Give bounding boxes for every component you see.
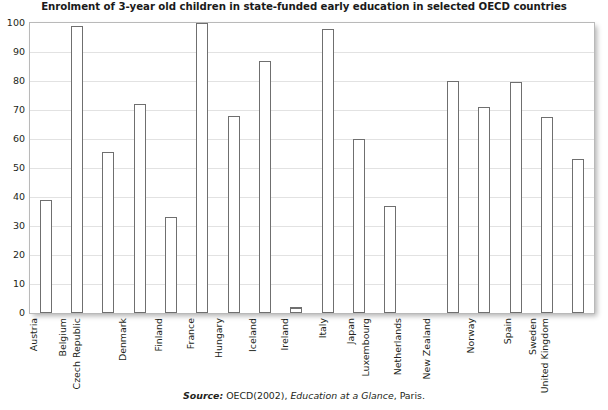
source-place: , Paris. bbox=[394, 390, 425, 401]
x-axis: AustriaBelgiumCzech RepublicDenmarkFinla… bbox=[30, 316, 594, 394]
y-tick-label: 100 bbox=[0, 18, 25, 28]
bar-slot bbox=[343, 23, 374, 313]
bar-slot bbox=[375, 23, 406, 313]
y-tick-label: 90 bbox=[0, 47, 25, 57]
bar-slot bbox=[312, 23, 343, 313]
bar[interactable] bbox=[165, 217, 177, 313]
bar[interactable] bbox=[447, 81, 459, 313]
x-tick-label: Denmark bbox=[118, 318, 128, 361]
bar-slot bbox=[155, 23, 186, 313]
source-publisher: OECD(2002), bbox=[223, 390, 290, 401]
x-label-slot: Denmark bbox=[124, 316, 155, 394]
x-tick-label: United Kingdom bbox=[541, 318, 551, 393]
bar-slot bbox=[124, 23, 155, 313]
bar-slot bbox=[187, 23, 218, 313]
bar-slot bbox=[218, 23, 249, 313]
bar[interactable] bbox=[102, 152, 114, 313]
y-tick-label: 60 bbox=[0, 134, 25, 144]
x-tick-label: France bbox=[187, 318, 197, 349]
bar-slot bbox=[563, 23, 594, 313]
bar-slot bbox=[437, 23, 468, 313]
y-tick-label: 80 bbox=[0, 76, 25, 86]
y-tick-label: 50 bbox=[0, 163, 25, 173]
bar[interactable] bbox=[71, 26, 83, 313]
bar-slot bbox=[406, 23, 437, 313]
x-tick-label: Japan bbox=[346, 318, 356, 344]
bar[interactable] bbox=[228, 116, 240, 313]
y-tick-label: 70 bbox=[0, 105, 25, 115]
gridline bbox=[30, 313, 594, 314]
y-axis: 0102030405060708090100 bbox=[0, 22, 25, 314]
source-label: Source: bbox=[183, 390, 223, 401]
x-label-slot: Italy bbox=[312, 316, 343, 394]
bar[interactable] bbox=[541, 117, 553, 313]
x-tick-label: Sweden bbox=[528, 318, 538, 355]
x-tick-label: Austria bbox=[29, 318, 39, 351]
bar-slot bbox=[531, 23, 562, 313]
x-tick-label: Czech Republic bbox=[73, 318, 83, 389]
bar[interactable] bbox=[290, 307, 302, 313]
bar[interactable] bbox=[322, 29, 334, 313]
x-tick-label: Luxembourg bbox=[361, 318, 371, 376]
x-tick-label: Netherlands bbox=[393, 318, 403, 375]
x-label-slot: New Zealand bbox=[437, 316, 468, 394]
y-tick-label: 30 bbox=[0, 221, 25, 231]
bar[interactable] bbox=[478, 107, 490, 313]
bar[interactable] bbox=[40, 200, 52, 313]
x-label-slot: Norway bbox=[469, 316, 500, 394]
x-tick-label: Italy bbox=[317, 318, 327, 338]
x-label-slot: Ireland bbox=[281, 316, 312, 394]
bar[interactable] bbox=[353, 139, 365, 313]
x-tick-label: New Zealand bbox=[422, 318, 432, 380]
bar[interactable] bbox=[259, 61, 271, 313]
x-label-slot: United Kingdom bbox=[563, 316, 594, 394]
y-tick-label: 0 bbox=[0, 308, 25, 318]
bar[interactable] bbox=[384, 206, 396, 313]
bars-layer bbox=[30, 23, 594, 313]
y-tick-label: 40 bbox=[0, 192, 25, 202]
x-tick-label: Iceland bbox=[248, 318, 258, 352]
source-publication: Education at a Glance bbox=[290, 390, 393, 401]
bar[interactable] bbox=[572, 159, 584, 313]
bar-slot bbox=[500, 23, 531, 313]
x-tick-label: Norway bbox=[467, 318, 477, 354]
source-note: Source: OECD(2002), Education at a Glanc… bbox=[0, 390, 608, 401]
bar-slot bbox=[249, 23, 280, 313]
chart-title: Enrolment of 3-year old children in stat… bbox=[0, 1, 608, 12]
bar[interactable] bbox=[510, 82, 522, 313]
bar-slot bbox=[469, 23, 500, 313]
x-label-slot: Hungary bbox=[218, 316, 249, 394]
x-tick-label: Hungary bbox=[214, 318, 224, 358]
x-label-slot: Iceland bbox=[249, 316, 280, 394]
bar-slot bbox=[93, 23, 124, 313]
x-label-slot: Finland bbox=[155, 316, 186, 394]
bar-slot bbox=[30, 23, 61, 313]
y-tick-label: 10 bbox=[0, 279, 25, 289]
bar[interactable] bbox=[134, 104, 146, 313]
y-tick-label: 20 bbox=[0, 250, 25, 260]
bar[interactable] bbox=[196, 23, 208, 313]
x-tick-label: Belgium bbox=[58, 318, 68, 356]
x-tick-label: Spain bbox=[503, 318, 513, 344]
bar-slot bbox=[281, 23, 312, 313]
bar-slot bbox=[61, 23, 92, 313]
x-tick-label: Finland bbox=[154, 318, 164, 352]
x-tick-label: Ireland bbox=[280, 318, 290, 350]
